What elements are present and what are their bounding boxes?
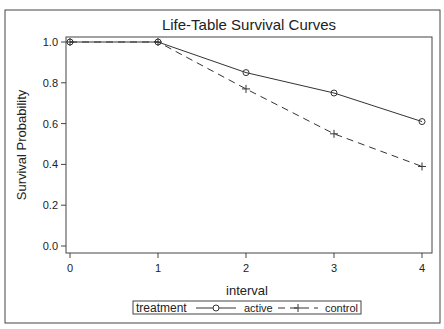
plus-marker-icon	[66, 38, 74, 46]
x-tick-label: 0	[67, 262, 73, 274]
x-tick-label: 1	[155, 262, 161, 274]
series-line	[70, 42, 422, 122]
x-axis: 01234	[67, 253, 425, 274]
chart-title: Life-Table Survival Curves	[162, 16, 336, 33]
plus-marker-icon	[330, 130, 338, 138]
y-tick-label: 1.0	[43, 36, 58, 48]
outer-frame	[5, 10, 440, 323]
legend-label-active: active	[244, 302, 273, 314]
y-tick-label: 0.0	[43, 240, 58, 252]
y-tick-label: 0.2	[43, 199, 58, 211]
plus-marker-icon	[242, 85, 250, 93]
legend-title: treatment	[136, 301, 187, 315]
plus-marker-icon	[418, 162, 426, 170]
series-active	[67, 39, 425, 125]
series-control	[66, 38, 426, 170]
y-axis-label: Survival Probability	[14, 89, 29, 200]
x-axis-label: interval	[226, 283, 268, 298]
plus-marker-icon	[154, 38, 162, 46]
x-tick-label: 3	[331, 262, 337, 274]
y-tick-label: 0.6	[43, 118, 58, 130]
plot-area	[66, 37, 432, 253]
series-group	[66, 38, 426, 170]
legend-label-control: control	[325, 302, 358, 314]
circle-marker-icon	[213, 305, 219, 311]
legend: treatment active control	[133, 301, 361, 315]
survival-chart: Life-Table Survival Curves 0.00.20.40.60…	[0, 0, 444, 329]
y-tick-label: 0.4	[43, 158, 58, 170]
x-tick-label: 4	[419, 262, 425, 274]
y-tick-label: 0.8	[43, 77, 58, 89]
y-axis: 0.00.20.40.60.81.0	[43, 36, 66, 252]
x-tick-label: 2	[243, 262, 249, 274]
